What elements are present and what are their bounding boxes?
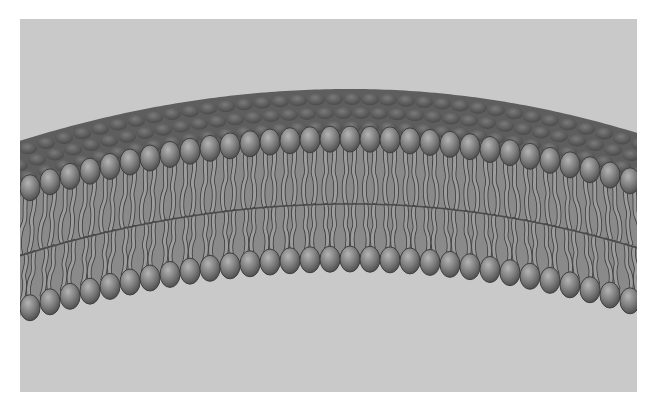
phospholipid-head	[480, 256, 500, 282]
phospholipid-head	[20, 175, 40, 201]
background-lipid-head	[163, 108, 181, 120]
phospholipid-head	[200, 255, 220, 281]
phospholipid-head	[180, 138, 200, 164]
background-lipid-head	[37, 137, 55, 149]
phospholipid-head	[40, 169, 60, 195]
background-lipid-head	[334, 107, 352, 119]
background-lipid-head	[190, 118, 208, 130]
phospholipid-head	[460, 254, 480, 280]
background-lipid-head	[217, 100, 235, 112]
phospholipid-head	[560, 152, 580, 178]
phospholipid-head	[620, 288, 637, 314]
background-lipid-head	[505, 107, 523, 119]
background-lipid-head	[370, 107, 388, 119]
background-lipid-head	[235, 98, 253, 110]
phospholipid-head	[420, 129, 440, 155]
background-lipid-head	[595, 127, 613, 139]
phospholipid-head	[440, 131, 460, 157]
phospholipid-head	[300, 247, 320, 273]
background-lipid-head	[154, 124, 172, 136]
background-lipid-head	[73, 127, 91, 139]
phospholipid-head	[460, 134, 480, 160]
background-lipid-head	[199, 103, 217, 115]
background-lipid-head	[442, 112, 460, 124]
background-lipid-head	[82, 139, 100, 151]
background-lipid-head	[289, 94, 307, 106]
background-lipid-head	[271, 95, 289, 107]
background-lipid-head	[532, 126, 550, 138]
phospholipid-head	[200, 135, 220, 161]
lipid-tail	[405, 149, 407, 205]
phospholipid-head	[600, 162, 620, 188]
phospholipid-head	[80, 278, 100, 304]
background-lipid-head	[352, 107, 370, 119]
background-lipid-head	[262, 110, 280, 122]
background-lipid-head	[100, 135, 118, 147]
phospholipid-head	[520, 143, 540, 169]
phospholipid-head	[60, 283, 80, 309]
background-lipid-head	[586, 139, 604, 151]
phospholipid-head	[360, 126, 380, 152]
background-lipid-head	[46, 148, 64, 160]
background-lipid-head	[91, 123, 109, 135]
phospholipid-head	[40, 289, 60, 315]
phospholipid-head	[380, 127, 400, 153]
background-lipid-head	[28, 154, 46, 166]
background-lipid-head	[568, 134, 586, 146]
phospholipid-head	[580, 277, 600, 303]
background-lipid-head	[577, 123, 595, 135]
background-lipid-head	[64, 144, 82, 156]
phospholipid-head	[540, 267, 560, 293]
phospholipid-head	[420, 249, 440, 275]
background-lipid-head	[118, 131, 136, 143]
phospholipid-head	[220, 253, 240, 279]
phospholipid-head	[600, 282, 620, 308]
phospholipid-head	[100, 153, 120, 179]
background-lipid-head	[460, 115, 478, 127]
phospholipid-head	[260, 129, 280, 155]
phospholipid-head	[240, 251, 260, 277]
phospholipid-head	[520, 263, 540, 289]
background-lipid-head	[613, 132, 631, 144]
phospholipid-head	[180, 258, 200, 284]
illustration-panel	[20, 19, 637, 392]
phospholipid-head	[260, 249, 280, 275]
background-lipid-head	[559, 118, 577, 130]
background-lipid-head	[541, 114, 559, 126]
phospholipid-head	[340, 126, 360, 152]
lipid-bilayer-illustration	[20, 19, 637, 392]
background-lipid-head	[136, 127, 154, 139]
background-lipid-head	[307, 94, 325, 106]
background-lipid-head	[424, 111, 442, 123]
background-lipid-head	[496, 120, 514, 132]
background-lipid-head	[415, 96, 433, 108]
phospholipid-head	[100, 273, 120, 299]
phospholipid-head	[480, 136, 500, 162]
phospholipid-head	[300, 127, 320, 153]
phospholipid-head	[140, 265, 160, 291]
background-lipid-head	[406, 109, 424, 121]
background-lipid-head	[523, 111, 541, 123]
phospholipid-head	[120, 269, 140, 295]
phospholipid-head	[500, 140, 520, 166]
background-lipid-head	[604, 144, 622, 156]
background-lipid-head	[244, 111, 262, 123]
phospholipid-head	[540, 147, 560, 173]
phospholipid-head	[280, 128, 300, 154]
phospholipid-head	[120, 149, 140, 175]
background-lipid-head	[109, 119, 127, 131]
background-lipid-head	[514, 123, 532, 135]
background-lipid-head	[226, 113, 244, 125]
phospholipid-head	[240, 131, 260, 157]
phospholipid-head	[440, 251, 460, 277]
phospholipid-head	[220, 133, 240, 159]
background-lipid-head	[388, 108, 406, 120]
background-lipid-head	[280, 109, 298, 121]
phospholipid-head	[140, 145, 160, 171]
background-lipid-head	[451, 99, 469, 111]
background-lipid-head	[487, 104, 505, 116]
phospholipid-head	[80, 158, 100, 184]
lipid-tail	[265, 208, 267, 254]
background-lipid-head	[145, 111, 163, 123]
lipid-tail	[273, 150, 275, 206]
